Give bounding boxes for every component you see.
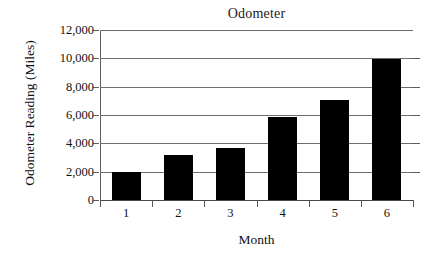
x-axis-tick-label: 3 <box>210 206 250 221</box>
y-axis-tick-mark-right <box>413 172 420 173</box>
x-axis-tick-label: 5 <box>315 206 355 221</box>
y-axis-tick-label: 4,000 <box>42 136 94 151</box>
bar <box>164 155 193 200</box>
gridline <box>100 87 413 88</box>
y-axis-tick-mark <box>92 58 99 59</box>
bar-chart: Odometer Odometer Reading (Miles) 02,000… <box>0 0 435 265</box>
chart-title: Odometer <box>100 6 413 22</box>
y-axis-tick-mark-right <box>413 87 420 88</box>
x-axis-tick-label: 6 <box>367 206 407 221</box>
y-axis-tick-mark <box>92 200 99 201</box>
x-axis-tick-label: 2 <box>158 206 198 221</box>
y-axis-tick-mark <box>92 87 99 88</box>
y-axis-tick-label: 0 <box>42 193 94 208</box>
x-axis-tick-mark <box>413 200 414 207</box>
gridline <box>100 115 413 116</box>
x-axis-tick-labels: 123456 <box>100 206 413 226</box>
bar <box>216 148 245 200</box>
x-axis-title: Month <box>100 232 413 248</box>
y-axis-tick-label: 8,000 <box>42 79 94 94</box>
bar <box>112 172 141 200</box>
y-axis-title: Odometer Reading (Miles) <box>22 18 38 208</box>
y-axis-tick-label: 6,000 <box>42 108 94 123</box>
bar <box>268 117 297 200</box>
gridline <box>100 30 413 31</box>
y-axis-tick-labels: 02,0004,0006,0008,00010,00012,000 <box>38 30 94 200</box>
plot-area <box>100 30 413 200</box>
y-axis-tick-mark <box>92 115 99 116</box>
y-axis-tick-mark-right <box>413 58 420 59</box>
y-axis-tick-mark <box>92 30 99 31</box>
y-axis-tick-mark-right <box>413 115 420 116</box>
x-axis-tick-label: 4 <box>263 206 303 221</box>
y-axis-tick-label: 2,000 <box>42 164 94 179</box>
y-axis-tick-mark-right <box>413 143 420 144</box>
bar <box>372 59 401 200</box>
bar <box>320 100 349 200</box>
x-axis-tick-label: 1 <box>106 206 146 221</box>
y-axis-tick-label: 12,000 <box>42 23 94 38</box>
y-axis-tick-mark <box>92 172 99 173</box>
y-axis-tick-mark <box>92 143 99 144</box>
gridline <box>100 58 413 59</box>
y-axis-tick-label: 10,000 <box>42 51 94 66</box>
gridline <box>100 143 413 144</box>
gridline <box>100 172 413 173</box>
y-axis-tick-marks-right <box>413 30 421 200</box>
